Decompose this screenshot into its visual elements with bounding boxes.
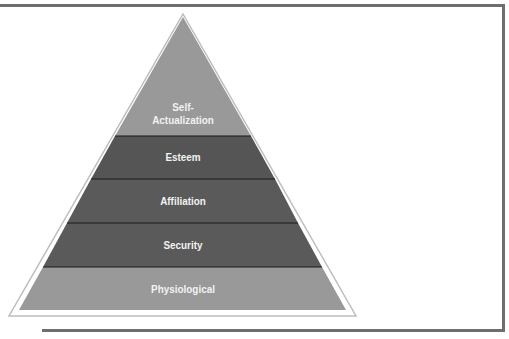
level-label-physiological: Physiological (93, 283, 273, 296)
level-label-security: Security (93, 239, 273, 252)
level-label-esteem: Esteem (93, 151, 273, 164)
label-line: Actualization (93, 114, 273, 127)
level-label-affiliation: Affiliation (93, 195, 273, 208)
label-line: Self- (93, 101, 273, 114)
level-label-self-actualization: Self- Actualization (93, 101, 273, 127)
